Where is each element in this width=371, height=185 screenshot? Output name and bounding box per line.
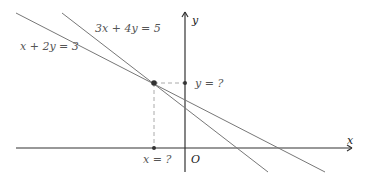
x-axis-label: x <box>347 134 354 147</box>
origin-label: O <box>191 153 200 166</box>
intersection-point <box>151 80 157 86</box>
coordinate-diagram: 3x + 4y = 5 x + 2y = 3 y = ? x = ? O y x <box>0 0 371 185</box>
line-label-3x-4y-5: 3x + 4y = 5 <box>95 22 161 35</box>
x-projection-point <box>152 146 156 150</box>
y-value-label: y = ? <box>194 77 223 90</box>
x-value-label: x = ? <box>143 153 171 166</box>
y-intercept-point <box>183 81 187 85</box>
line-label-x-2y-3: x + 2y = 3 <box>20 40 79 53</box>
y-axis-label: y <box>191 14 199 27</box>
